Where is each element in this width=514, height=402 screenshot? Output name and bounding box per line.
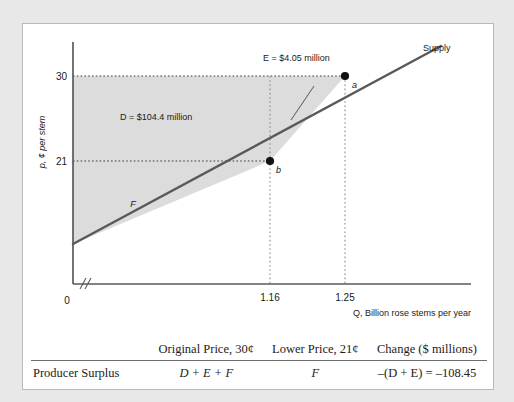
- table-header-original-price: Original Price, 30¢: [149, 340, 263, 361]
- table-cell-lower-price: F: [263, 361, 367, 385]
- table-body: Producer Surplus D + E + F F –(D + E) = …: [31, 361, 487, 385]
- producer-surplus-table: Original Price, 30¢ Lower Price, 21¢ Cha…: [31, 340, 487, 384]
- table-head: Original Price, 30¢ Lower Price, 21¢ Cha…: [31, 340, 487, 361]
- region-e-label: E = $4.05 million: [263, 53, 330, 63]
- x-tick-label-116: 1.16: [260, 292, 280, 303]
- point-b-marker: [266, 157, 274, 165]
- table-row: Producer Surplus D + E + F F –(D + E) = …: [31, 361, 487, 385]
- table-header-row: Original Price, 30¢ Lower Price, 21¢ Cha…: [31, 340, 487, 361]
- table-header-blank: [31, 340, 149, 361]
- chart-plot-area: p, ¢ per stem Q, Billion rose stems per …: [23, 24, 493, 334]
- table-cell-original-price: D + E + F: [149, 361, 263, 385]
- point-a-marker: [341, 72, 349, 80]
- region-f-label: F: [130, 199, 136, 209]
- point-b-label: b: [276, 165, 281, 175]
- x-tick-label-125: 1.25: [335, 292, 355, 303]
- table-row-label: Producer Surplus: [31, 361, 149, 385]
- supply-curve-label: Supply: [423, 43, 451, 53]
- origin-label: 0: [64, 295, 70, 306]
- x-axis-title: Q, Billion rose stems per year: [353, 308, 471, 318]
- region-d-label: D = $104.4 million: [120, 112, 192, 122]
- y-tick-label-30: 30: [56, 71, 68, 82]
- table-cell-change: –(D + E) = –108.45: [367, 361, 487, 385]
- producer-surplus-chart: p, ¢ per stem Q, Billion rose stems per …: [23, 24, 493, 334]
- point-a-label: a: [352, 80, 357, 90]
- table-header-lower-price: Lower Price, 21¢: [263, 340, 367, 361]
- table-header-change: Change ($ millions): [367, 340, 487, 361]
- region-f-area: [73, 161, 270, 244]
- y-tick-label-21: 21: [56, 156, 68, 167]
- y-axis-title: p, ¢ per stem: [37, 115, 47, 169]
- figure-card: p, ¢ per stem Q, Billion rose stems per …: [22, 23, 494, 390]
